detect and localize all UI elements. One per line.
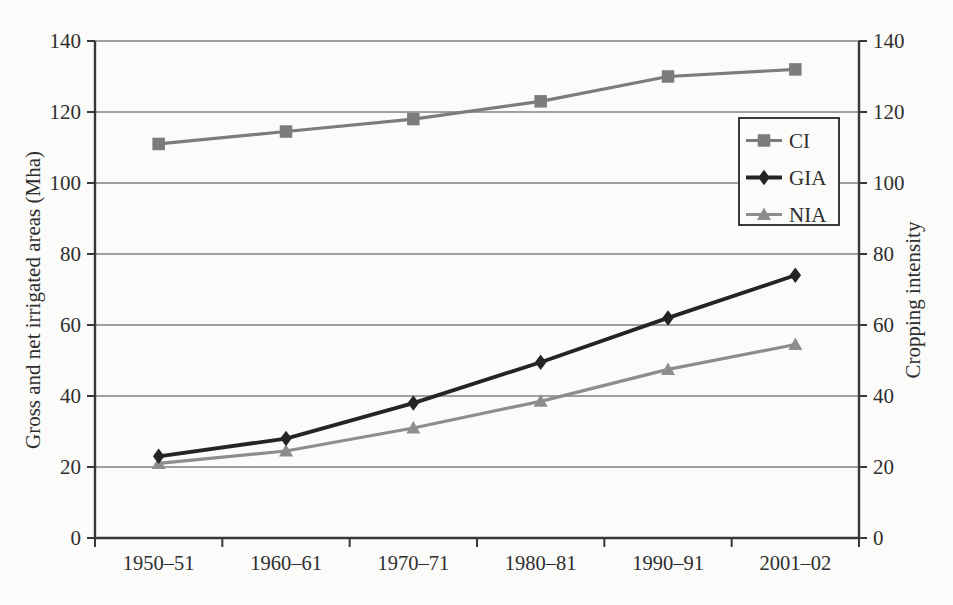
chart-figure: 0020204040606080801001001201201401401950… — [0, 0, 953, 605]
left-axis-tick-label: 0 — [71, 526, 82, 550]
data-point-marker-diamond — [790, 268, 802, 284]
right-axis-title: Cropping intensity — [901, 222, 926, 379]
legend-label-GIA: GIA — [789, 166, 827, 190]
right-axis-tick-label: 80 — [873, 242, 894, 266]
data-point-marker-square — [407, 113, 420, 126]
data-point-marker-diamond — [280, 431, 292, 447]
series-NIA — [152, 338, 803, 469]
left-axis-tick-label: 120 — [50, 100, 82, 124]
data-point-marker-square — [758, 134, 771, 147]
x-axis-tick-label: 1960–61 — [250, 552, 322, 574]
x-axis-tick-label: 2001–02 — [759, 552, 831, 574]
data-point-marker-diamond — [535, 355, 547, 371]
left-axis-tick-label: 60 — [60, 313, 81, 337]
left-axis-tick-label: 140 — [50, 29, 82, 53]
x-axis-tick-label: 1980–81 — [505, 552, 577, 574]
legend-label-NIA: NIA — [789, 203, 827, 227]
x-axis-tick-label: 1970–71 — [377, 552, 449, 574]
right-axis-tick-label: 120 — [873, 100, 905, 124]
x-axis-tick-label: 1990–91 — [632, 552, 704, 574]
series-line-NIA — [159, 345, 796, 464]
data-point-marker-square — [280, 125, 293, 137]
data-point-marker-square — [662, 70, 675, 83]
left-axis-tick-label: 40 — [60, 384, 81, 408]
right-axis-tick-label: 100 — [873, 171, 905, 195]
x-axis-tick-label: 1950–51 — [123, 552, 195, 574]
series-GIA — [153, 268, 801, 465]
series-CI — [152, 63, 801, 150]
data-point-marker-square — [789, 63, 802, 76]
irrigated-area-cropping-intensity-chart: 0020204040606080801001001201201401401950… — [0, 0, 953, 605]
left-axis-tick-label: 20 — [60, 455, 81, 479]
right-axis-tick-label: 40 — [873, 384, 894, 408]
right-axis-tick-label: 60 — [873, 313, 894, 337]
data-point-marker-diamond — [662, 310, 674, 326]
right-axis-tick-label: 140 — [873, 29, 905, 53]
legend: CIGIANIA — [739, 118, 839, 227]
series-line-CI — [159, 69, 796, 144]
data-point-marker-square — [152, 138, 165, 151]
left-axis-title: Gross and net irrigated areas (Mha) — [21, 151, 46, 449]
data-point-marker-triangle — [788, 338, 802, 351]
right-axis-tick-label: 0 — [873, 526, 884, 550]
data-point-marker-square — [534, 95, 547, 108]
right-axis-tick-label: 20 — [873, 455, 894, 479]
series-line-GIA — [159, 275, 796, 456]
left-axis-tick-label: 100 — [50, 171, 82, 195]
legend-label-CI: CI — [789, 129, 810, 153]
data-point-marker-diamond — [408, 395, 420, 411]
left-axis-tick-label: 80 — [60, 242, 81, 266]
